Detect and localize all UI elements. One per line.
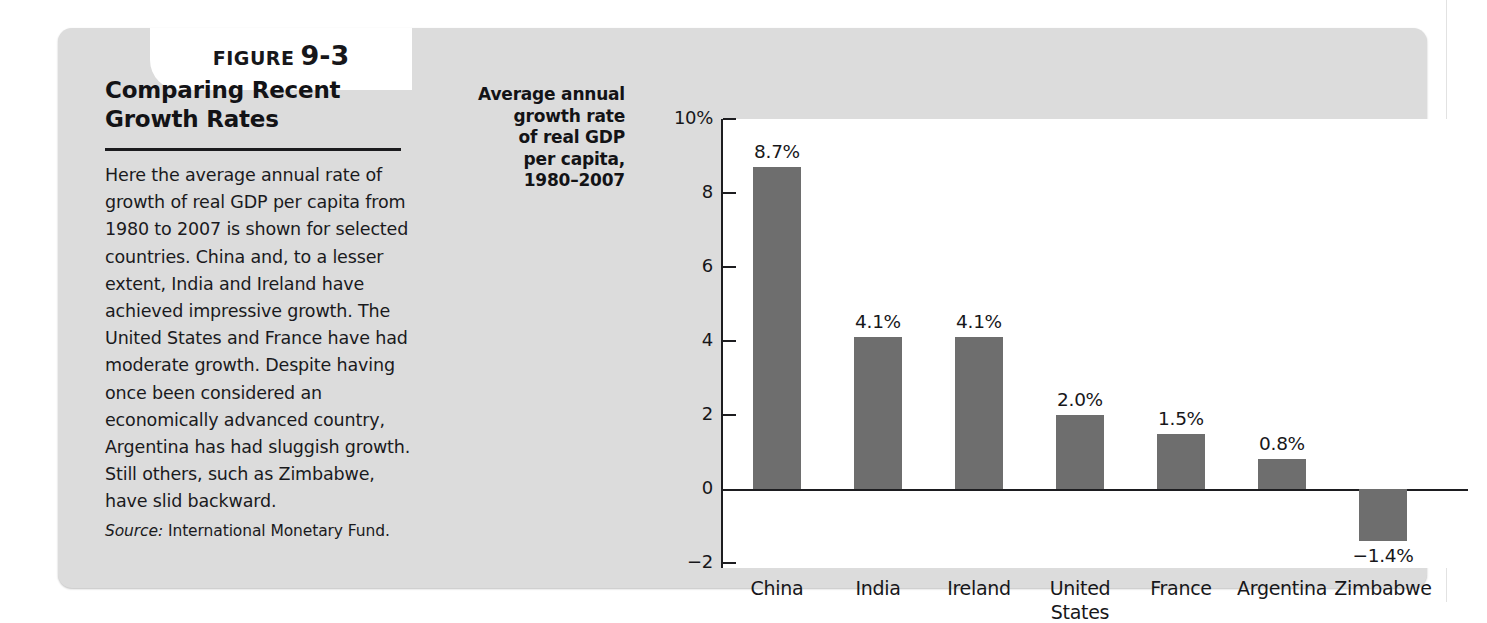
chart: Average annualgrowth rateof real GDPper … (413, 76, 1427, 588)
y-axis-tick-labels: 10%86420−2 (651, 119, 713, 568)
bar (1258, 459, 1306, 489)
y-axis-title-line: growth rate (413, 106, 625, 128)
x-axis-category-label-line: Zimbabwe (1331, 576, 1435, 600)
figure-number: 9-3 (300, 40, 349, 71)
figure-number-tab-inner: FIGURE9-3 (150, 40, 412, 71)
bar (955, 337, 1003, 489)
bar (753, 167, 801, 489)
plot-area: 8.7%4.1%4.1%2.0%1.5%0.8%−1.4% (721, 119, 1468, 568)
y-axis-title: Average annualgrowth rateof real GDPper … (413, 84, 625, 192)
x-axis-category-label: Argentina (1230, 576, 1334, 600)
x-axis-category-label-line: India (826, 576, 930, 600)
y-axis-tick (723, 266, 736, 268)
y-axis-tick-label: 0 (653, 477, 713, 498)
bar-value-label: 2.0% (1025, 389, 1135, 410)
figure-label: FIGURE (213, 47, 295, 69)
figure-description: Here the average annual rate of growth o… (105, 162, 411, 516)
bar (854, 337, 902, 489)
x-axis-category-label: Zimbabwe (1331, 576, 1435, 600)
bar-value-label: 0.8% (1227, 433, 1337, 454)
y-axis-tick (723, 118, 736, 120)
bar-value-label: 4.1% (924, 311, 1034, 332)
y-axis-tick-label: 6 (653, 255, 713, 276)
y-axis-title-line: of real GDP (413, 127, 625, 149)
y-axis-title-line: Average annual (413, 84, 625, 106)
caption-divider (105, 148, 401, 151)
bar (1056, 415, 1104, 489)
y-axis-title-line: per capita, (413, 149, 625, 171)
figure-panel: FIGURE9-3 Comparing Recent Growth Rates … (58, 28, 1427, 588)
bar-value-label: 4.1% (823, 311, 933, 332)
x-axis-category-label: UnitedStates (1028, 576, 1132, 623)
y-axis-tick-label: 2 (653, 403, 713, 424)
source-text: International Monetary Fund. (168, 522, 390, 540)
x-axis-category-label: France (1129, 576, 1233, 600)
y-axis-line (721, 119, 723, 568)
x-axis-category-label-line: States (1028, 600, 1132, 623)
bar-value-label: 1.5% (1126, 408, 1236, 429)
bar (1359, 489, 1407, 541)
bar-value-label: 8.7% (722, 141, 832, 162)
bar (1157, 434, 1205, 490)
x-axis-category-label: China (725, 576, 829, 600)
y-axis-tick-label: 10% (653, 107, 713, 128)
y-axis-tick (723, 562, 736, 564)
x-axis-zero-line (721, 489, 1468, 491)
y-axis-tick-label: −2 (653, 551, 713, 572)
source-label: Source: (105, 522, 163, 540)
x-axis-category-label: India (826, 576, 930, 600)
bar-value-label: −1.4% (1328, 545, 1438, 566)
y-axis-title-line: 1980–2007 (413, 170, 625, 192)
x-axis-category-label-line: China (725, 576, 829, 600)
caption-column: Comparing Recent Growth Rates Here the a… (105, 76, 411, 542)
y-axis-tick-label: 8 (653, 181, 713, 202)
x-axis-category-label-line: Argentina (1230, 576, 1334, 600)
x-axis-category-label-line: Ireland (927, 576, 1031, 600)
y-axis-tick (723, 414, 736, 416)
x-axis-category-label-line: United (1028, 576, 1132, 600)
figure-source: Source: International Monetary Fund. (105, 520, 411, 542)
y-axis-tick (723, 192, 736, 194)
x-axis-category-label: Ireland (927, 576, 1031, 600)
x-axis-category-label-line: France (1129, 576, 1233, 600)
y-axis-tick-label: 4 (653, 329, 713, 350)
y-axis-tick (723, 340, 736, 342)
figure-title: Comparing Recent Growth Rates (105, 76, 411, 134)
